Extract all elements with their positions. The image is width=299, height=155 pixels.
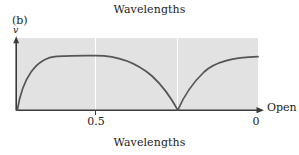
wave-arch-first [17,56,178,111]
wave-arch-second [178,57,258,110]
open-end-label: Open [267,101,297,114]
standing-wave-curve-layer [0,0,299,155]
x-tick-label-0-5: 0.5 [80,115,112,128]
x-axis-arrowhead [257,107,265,113]
figure-caption: Wavelengths [0,136,299,149]
y-axis-arrowhead [13,36,19,43]
x-tick-label-0: 0 [243,115,269,128]
wavelengths-figure-panel-b: Wavelengths (b) v 0.5 0 Open Wavelengths [0,0,299,155]
